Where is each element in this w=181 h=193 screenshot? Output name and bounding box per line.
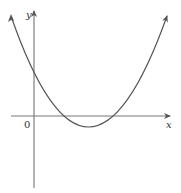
origin-label: 0 — [24, 119, 30, 130]
parabola-graph: y 0 x — [0, 0, 181, 193]
y-axis-label: y — [25, 9, 32, 20]
x-axis-label: x — [166, 119, 172, 130]
